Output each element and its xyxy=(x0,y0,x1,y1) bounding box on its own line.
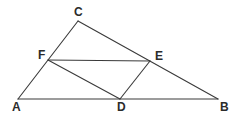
segment-FE xyxy=(48,60,150,61)
vertex-label-f: F xyxy=(38,49,46,61)
vertex-label-a: A xyxy=(12,101,21,113)
vertex-label-e: E xyxy=(155,50,163,62)
vertex-label-b: B xyxy=(220,101,229,113)
segment-ED xyxy=(120,61,150,99)
vertex-label-c: C xyxy=(74,6,83,18)
segment-FD xyxy=(48,60,120,99)
geometry-diagram: A B C D E F xyxy=(0,0,236,119)
vertex-label-d: D xyxy=(117,101,126,113)
